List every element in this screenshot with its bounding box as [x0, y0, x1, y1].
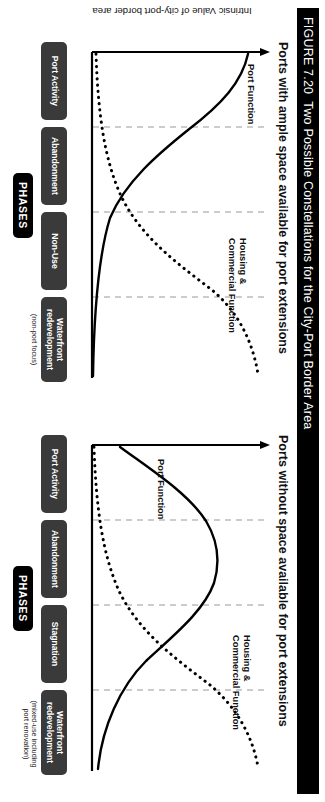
- phase-box-port-activity-right[interactable]: Port Activity: [41, 435, 67, 513]
- phase-box-waterfront-redevelopment-right[interactable]: Waterfront redevelopment: [41, 690, 67, 775]
- figure-title-bar: FIGURE 7.20 Two Possible Constellations …: [297, 8, 319, 794]
- phase-box-abandonment-right[interactable]: Abandonment: [41, 520, 67, 598]
- phase-box-non-use-left[interactable]: Non-Use: [41, 212, 67, 290]
- phase-gap: [41, 120, 67, 127]
- plot-area-without-space: Port Function Housing & Commercial Funct…: [74, 435, 270, 775]
- curve-label-line1-left: Housing &: [237, 238, 248, 333]
- phase-gap: [41, 598, 67, 605]
- panel-ample-space: Ports with ample space available for por…: [6, 8, 292, 401]
- curve-port-function-left: [93, 54, 248, 376]
- curve-label-port-function-left: Port Function: [245, 64, 256, 124]
- phase-strip-right: Port Activity Abandonment Stagnation Wat…: [9, 435, 67, 775]
- phase-row-left: Port Activity Abandonment Non-Use Waterf…: [41, 42, 67, 382]
- phase-box-waterfront-redevelopment-left[interactable]: Waterfront redevelopment: [41, 297, 67, 382]
- figure-title: Two Possible Constellations for the City…: [301, 101, 315, 429]
- phase-gap: [41, 290, 67, 297]
- phase-strip-left: Port Activity Abandonment Non-Use Waterf…: [9, 42, 67, 382]
- phase-gap: [41, 205, 67, 212]
- phase-note-waterfront-right: (mixed-use including port renovation): [21, 690, 38, 778]
- curve-label-housing-commercial-left: Housing & Commercial Function: [226, 238, 248, 333]
- figure-7-20: FIGURE 7.20 Two Possible Constellations …: [0, 0, 325, 802]
- figure-number: FIGURE 7.20: [301, 17, 315, 94]
- phase-box-abandonment-left[interactable]: Abandonment: [41, 127, 67, 205]
- phase-box-stagnation-right[interactable]: Stagnation: [41, 605, 67, 683]
- panel-title-without-space: Ports without space available for port e…: [276, 435, 290, 727]
- curve-label-housing-commercial-right: Housing & Commercial Function: [230, 635, 252, 730]
- curve-label-line1-right: Housing &: [241, 635, 252, 730]
- curve-label-port-function-right: Port Function: [155, 459, 166, 519]
- phases-badge-left: PHASES: [13, 173, 33, 238]
- curve-label-line2-right: Commercial Function: [230, 635, 241, 730]
- phase-row-right: Port Activity Abandonment Stagnation Wat…: [41, 435, 67, 775]
- rotated-figure-container: FIGURE 7.20 Two Possible Constellations …: [0, 0, 325, 802]
- y-axis-label-left: Intrinsic Value of city-port border area: [74, 4, 270, 18]
- phase-gap: [41, 513, 67, 520]
- plot-area-ample-space: Port Function Housing & Commercial Funct…: [74, 42, 270, 382]
- phase-box-port-activity-left[interactable]: Port Activity: [41, 42, 67, 120]
- panel-without-space: Ports without space available for port e…: [6, 401, 292, 794]
- panels-container: Ports with ample space available for por…: [6, 8, 292, 794]
- phases-badge-right: PHASES: [13, 566, 33, 631]
- curve-label-line2-left: Commercial Function: [226, 238, 237, 333]
- phase-gap: [41, 683, 67, 690]
- phase-note-waterfront-left: (non-port focus): [30, 297, 38, 382]
- panel-title-ample-space: Ports with ample space available for por…: [276, 42, 290, 354]
